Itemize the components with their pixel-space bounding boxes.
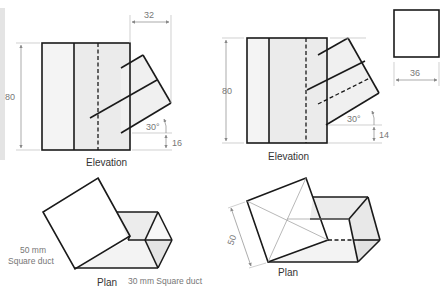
square-width-dim: 36 bbox=[410, 68, 420, 78]
small-duct-label: 30 mm Square duct bbox=[128, 276, 203, 286]
technical-drawing: 80 32 30° 16 Elevation 80 bbox=[0, 0, 441, 291]
left-elevation-offset-dim: 16 bbox=[172, 138, 182, 148]
right-plan-label: Plan bbox=[278, 267, 298, 278]
left-elevation: 80 32 30° 16 Elevation bbox=[5, 10, 182, 168]
left-elevation-label: Elevation bbox=[86, 157, 127, 168]
right-elevation-height-dim: 80 bbox=[222, 86, 232, 96]
large-duct-label-line2: Square duct bbox=[8, 256, 54, 266]
left-plan-label: Plan bbox=[97, 277, 117, 288]
square-end-view: 36 bbox=[394, 10, 439, 86]
right-elevation-offset-dim: 14 bbox=[379, 130, 389, 140]
left-plan: 50 mm Square duct Plan 30 mm Square duct bbox=[8, 178, 203, 288]
right-elevation-angle: 30° bbox=[347, 114, 361, 124]
left-elevation-branch-width-dim: 32 bbox=[144, 10, 154, 20]
right-plan: 50 Plan bbox=[226, 178, 380, 278]
large-duct-label-line1: 50 mm bbox=[20, 245, 46, 255]
right-plan-side-dim: 50 bbox=[226, 234, 239, 247]
page-edge-shadow bbox=[0, 8, 5, 160]
right-elevation: 80 30° 14 Elevation bbox=[222, 38, 389, 162]
left-elevation-height-dim: 80 bbox=[5, 92, 15, 102]
right-elevation-label: Elevation bbox=[268, 151, 309, 162]
left-elevation-angle: 30° bbox=[146, 122, 160, 132]
